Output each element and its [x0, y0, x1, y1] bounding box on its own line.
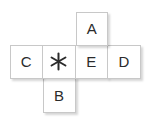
cross-tile-puzzle-figure: A C E D B	[0, 0, 147, 134]
tile-b-label: B	[54, 88, 64, 103]
tile-asterisk[interactable]	[42, 45, 76, 80]
tile-e-label: E	[86, 54, 96, 69]
tile-e[interactable]: E	[75, 45, 109, 80]
tile-c[interactable]: C	[10, 45, 43, 80]
tile-grid: A C E D B	[10, 12, 141, 113]
tile-a[interactable]: A	[76, 12, 109, 46]
tile-a-label: A	[87, 21, 97, 36]
tile-d-label: D	[119, 54, 130, 69]
tile-c-label: C	[21, 54, 32, 69]
tile-b[interactable]: B	[43, 78, 76, 113]
tile-d[interactable]: D	[107, 45, 141, 80]
asterisk-icon	[49, 52, 68, 71]
